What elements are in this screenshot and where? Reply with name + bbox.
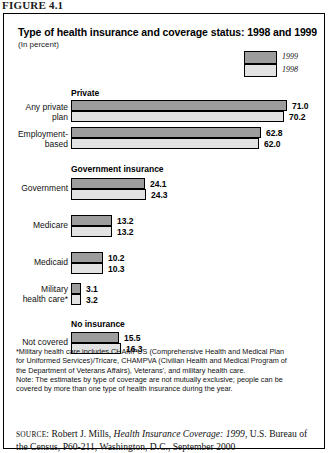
footnotes: *Military health care includes CHAMPUS (… [16,347,320,393]
bar-medicare-1999 [71,215,112,226]
category-label-line1: Employment- [4,129,68,139]
category-label-line1: Government [4,183,68,193]
source-prefix: SOURCE [16,430,46,439]
category-label-medicaid: Medicaid [4,257,68,267]
footnote-line-2: for Uniformed Services)/Tricare, CHAMPVA… [16,356,320,365]
bar-value-medicaid-1998: 10.3 [108,264,125,274]
category-label-line2: plan [4,112,68,122]
bar-value-government-1998: 24.3 [151,190,168,200]
category-label-employment-based: Employment- based [4,129,68,149]
category-label-line1: Any private [4,102,68,112]
footnote-line-3: the Department of Veterans Affairs), Vet… [16,366,320,375]
source-title: Health Insurance Coverage: 1999 [114,428,245,439]
bar-value-government-1999: 24.1 [150,179,167,189]
figure-frame: Type of health insurance and coverage st… [3,13,325,449]
category-label-line2: health care* [4,294,68,304]
bar-value-employment-based-1998: 62.0 [264,139,281,149]
bar-value-medicaid-1999: 10.2 [108,253,125,263]
category-label-any-private-plan: Any private plan [4,102,68,122]
bar-any-private-plan-1998 [71,111,284,122]
group-heading-government-insurance: Government insurance [71,164,164,174]
bar-employment-based-1998 [71,138,259,149]
bar-value-any-private-plan-1999: 71.0 [292,101,309,111]
category-label-not-covered: Not covered [4,337,68,347]
footnote-line-1: *Military health care includes CHAMPUS (… [16,347,320,356]
group-heading-private: Private [71,88,99,98]
bar-value-employment-based-1999: 62.8 [266,128,283,138]
bar-any-private-plan-1999 [71,100,287,111]
bar-military-health-care-1998 [71,294,81,305]
category-label-line2: based [4,139,68,149]
bar-military-health-care-1999 [71,283,81,294]
bar-value-medicare-1998: 13.2 [117,227,134,237]
bar-medicaid-1998 [71,263,103,274]
bar-value-military-health-care-1999: 3.1 [86,284,98,294]
bar-government-1998 [71,189,146,200]
bar-value-medicare-1999: 13.2 [117,216,134,226]
group-heading-no-insurance: No insurance [71,319,125,329]
bar-value-any-private-plan-1998: 70.2 [289,112,306,122]
bar-government-1999 [71,178,145,189]
bar-value-military-health-care-1998: 3.2 [86,295,98,305]
footnote-line-5: covered by more than one type of health … [16,384,320,393]
figure-label: FIGURE 4.1 [2,0,63,11]
bar-value-not-covered-1999: 15.5 [124,333,141,343]
category-label-medicare: Medicare [4,220,68,230]
source-author: Robert J. Mills, [51,428,113,439]
category-label-line1: Military [4,284,68,294]
source-note: SOURCE: Robert J. Mills, Health Insuranc… [16,428,320,453]
bar-medicaid-1999 [71,252,103,263]
bar-medicare-1998 [71,226,112,237]
footnote-line-4: Note: The estimates by type of coverage … [16,375,320,384]
bar-employment-based-1999 [71,127,261,138]
category-label-line1: Medicare [4,220,68,230]
bar-not-covered-1999 [71,332,119,343]
category-label-line1: Not covered [4,337,68,347]
category-label-line1: Medicaid [4,257,68,267]
category-label-government: Government [4,183,68,193]
category-label-military-health-care: Military health care* [4,284,68,304]
figure-page: FIGURE 4.1 Type of health insurance and … [0,0,332,453]
